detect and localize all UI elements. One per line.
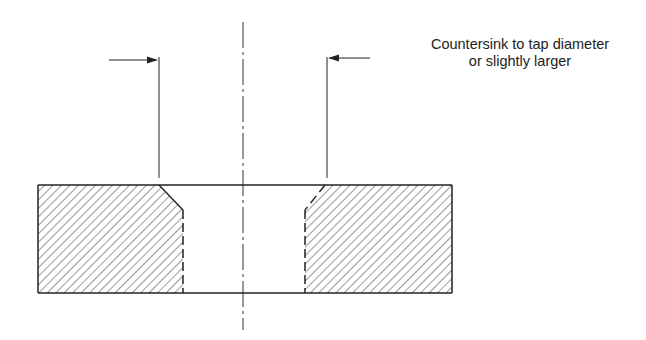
- countersink-chamfers: [159, 185, 325, 210]
- right-dimension-arrow: [327, 55, 370, 179]
- countersink-annotation: Countersink to tap diameter or slightly …: [395, 36, 645, 70]
- right-section-hatch: [305, 185, 452, 293]
- left-section-hatch: [38, 185, 183, 293]
- bore-walls: [183, 210, 305, 293]
- left-dimension-arrow: [109, 57, 159, 179]
- annotation-line-1: Countersink to tap diameter: [395, 36, 645, 53]
- annotation-line-2: or slightly larger: [395, 53, 645, 70]
